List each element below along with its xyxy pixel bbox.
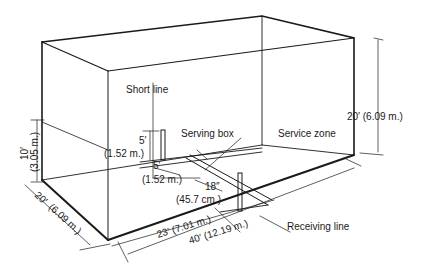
serving-box-post <box>161 130 165 160</box>
receiving-line-label: Receiving line <box>287 221 350 232</box>
court-diagram: Short line Serving box Service zone Rece… <box>0 0 421 275</box>
serving-box-width-m: (1.52 m.) <box>142 174 182 185</box>
short-line-label: Short line <box>126 84 169 95</box>
receiving-line-post <box>238 173 242 211</box>
gap-cm: (45.7 cm.) <box>176 194 221 205</box>
gap-inches: 18″ <box>205 181 220 192</box>
serving-box-width-ft: 5′ <box>153 160 161 171</box>
height-label: 20′ (6.09 m.) <box>347 111 403 122</box>
service-zone-label: Service zone <box>278 128 336 139</box>
serving-box-height-m: (1.52 m.) <box>104 148 144 159</box>
serving-box-height-ft: 5′ <box>139 135 147 146</box>
width-m: (6.09 m.) <box>47 201 84 236</box>
width-ft: 20′ <box>33 189 50 206</box>
serving-box-label: Serving box <box>181 128 234 139</box>
back-wall-height-m: (3.05 m.) <box>29 132 40 172</box>
